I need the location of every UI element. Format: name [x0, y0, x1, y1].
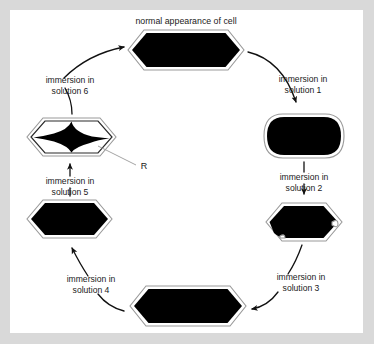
- figure-frame: normal appearance of cell: [0, 0, 374, 344]
- step-label-line2: solution 2: [286, 183, 323, 193]
- cell-after-solution-1: [264, 114, 344, 158]
- arrow-to-cell-after-solution-4: [72, 248, 88, 276]
- cell-after-solution-4: [27, 200, 112, 238]
- page-title: normal appearance of cell: [135, 16, 236, 26]
- connector-solution-3-upper: [288, 245, 302, 274]
- arrow-to-normal-cell: [64, 47, 124, 78]
- cell-after-solution-2: [266, 203, 342, 241]
- step-label-solution-4: immersion in solution 4: [67, 274, 116, 295]
- figure-panel: normal appearance of cell: [10, 10, 363, 333]
- connector-solution-4-lower: [98, 294, 124, 311]
- step-label-line1: immersion in: [67, 274, 116, 284]
- step-label-line1: immersion in: [46, 176, 95, 186]
- step-label-solution-5: immersion in solution 5: [46, 176, 95, 197]
- step-label-solution-1: immersion in solution 1: [279, 74, 328, 95]
- step-label-solution-3: immersion in solution 3: [277, 272, 326, 293]
- callout-label-r: R: [141, 161, 148, 171]
- step-label-line1: immersion in: [280, 172, 329, 182]
- step-label-line2: solution 4: [73, 285, 110, 295]
- step-label-line2: solution 6: [52, 86, 89, 96]
- cell-normal: [128, 30, 244, 70]
- step-label-solution-2: immersion in solution 2: [280, 172, 329, 193]
- step-label-line1: immersion in: [46, 75, 95, 85]
- step-label-line1: immersion in: [277, 272, 326, 282]
- step-label-line2: solution 5: [52, 187, 89, 197]
- cell-after-solution-5: [27, 118, 116, 156]
- cell-after-solution-3: [130, 286, 246, 326]
- arrow-to-cell-after-solution-3: [252, 292, 278, 309]
- step-label-line2: solution 3: [283, 283, 320, 293]
- step-label-line1: immersion in: [279, 74, 328, 84]
- callout-leader-line: [98, 146, 136, 165]
- step-label-solution-6: immersion in solution 6: [46, 75, 95, 96]
- cell-osmosis-cycle-diagram: normal appearance of cell: [10, 10, 363, 333]
- step-label-line2: solution 1: [285, 85, 322, 95]
